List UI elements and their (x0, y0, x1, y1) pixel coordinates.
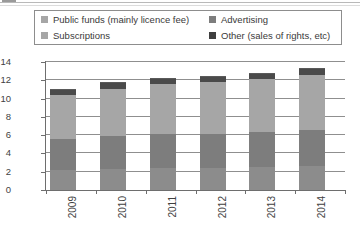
x-axis-line (45, 190, 345, 191)
bars-layer (46, 62, 345, 190)
bar-segment-2009-public-funds-mainly-licence-fee (50, 95, 76, 139)
bar-segment-2010-advertising (100, 136, 126, 169)
bar-2011 (150, 78, 176, 190)
y-axis-tick-label-4: 4 (0, 149, 11, 159)
bar-segment-2011-subscriptions (150, 168, 176, 190)
bar-segment-2012-public-funds-mainly-licence-fee (200, 82, 226, 134)
chart-screenshot: Public funds (mainly licence fee) Advert… (0, 0, 360, 245)
x-axis-tick-label-2009: 2009 (68, 196, 78, 218)
bar-segment-2010-public-funds-mainly-licence-fee (100, 89, 126, 137)
bar-2012 (200, 76, 226, 190)
bar-segment-2014-public-funds-mainly-licence-fee (299, 75, 325, 130)
bar-segment-2009-advertising (50, 139, 76, 170)
y-axis-tick-label-12: 12 (0, 76, 11, 86)
y-axis-line (45, 61, 46, 191)
bar-segment-2013-public-funds-mainly-licence-fee (249, 79, 275, 132)
x-axis-tick-label-2012: 2012 (218, 196, 228, 218)
x-axis-tick-mark-6 (345, 190, 346, 194)
bar-segment-2013-advertising (249, 132, 275, 167)
bar-segment-2011-advertising (150, 134, 176, 168)
bar-segment-2014-subscriptions (299, 166, 325, 190)
bar-2014 (299, 68, 325, 190)
bar-segment-2014-advertising (299, 130, 325, 167)
y-axis-tick-label-0: 0 (0, 185, 11, 195)
y-axis-tick-label-6: 6 (0, 130, 11, 140)
bar-2010 (100, 82, 126, 190)
bar-segment-2012-subscriptions (200, 168, 226, 190)
bar-segment-2013-subscriptions (249, 167, 275, 190)
y-axis-tick-label-10: 10 (0, 94, 11, 104)
x-axis-tick-label-2013: 2013 (267, 196, 277, 218)
bar-segment-2009-subscriptions (50, 170, 76, 190)
bar-segment-2011-public-funds-mainly-licence-fee (150, 84, 176, 134)
y-axis-tick-label-2: 2 (0, 167, 11, 177)
y-axis-tick-label-8: 8 (0, 112, 11, 122)
x-axis-tick-label-2010: 2010 (118, 196, 128, 218)
x-axis-tick-label-2011: 2011 (168, 196, 178, 218)
bar-2009 (50, 89, 76, 190)
bar-2013 (249, 73, 275, 190)
y-axis-tick-label-14: 14 (0, 57, 11, 67)
plot-region: 02468101214 200920102011201220132014 (0, 0, 360, 245)
bar-segment-2012-advertising (200, 134, 226, 168)
x-axis-tick-label-2014: 2014 (317, 196, 327, 218)
bar-segment-2010-subscriptions (100, 169, 126, 190)
